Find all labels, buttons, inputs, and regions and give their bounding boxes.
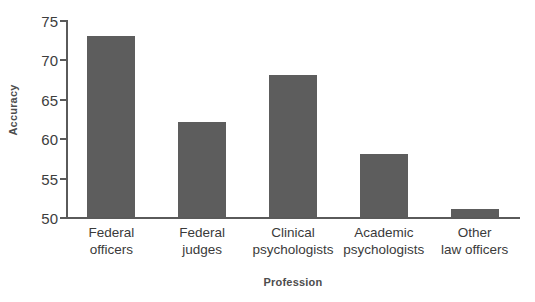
x-category-label: Federal officers	[66, 224, 157, 258]
y-tick-label: 70	[41, 53, 58, 68]
bar[interactable]	[451, 209, 499, 217]
bar[interactable]	[360, 154, 408, 217]
y-tick-mark	[60, 217, 66, 219]
x-axis-category-labels: Federal officersFederal judgesClinical p…	[66, 224, 520, 270]
y-axis-title: Accuracy	[0, 0, 26, 220]
y-tick-label: 50	[41, 211, 58, 226]
bar[interactable]	[178, 122, 226, 217]
x-category-label: Other law officers	[429, 224, 520, 258]
bar-chart: Accuracy 505560657075 Federal officersFe…	[0, 0, 535, 302]
x-category-label: Academic psychologists	[338, 224, 429, 258]
y-tick-label: 65	[41, 92, 58, 107]
y-tick-label: 60	[41, 132, 58, 147]
x-axis-title: Profession	[66, 276, 520, 288]
x-category-label: Clinical psychologists	[248, 224, 339, 258]
x-axis-line	[66, 217, 520, 219]
plot-area: 505560657075	[66, 20, 520, 218]
bars-layer	[66, 20, 520, 217]
y-tick-label: 55	[41, 171, 58, 186]
bar[interactable]	[269, 75, 317, 217]
bar[interactable]	[87, 36, 135, 217]
y-axis-title-label: Accuracy	[7, 84, 19, 135]
y-tick-label: 75	[41, 14, 58, 29]
x-category-label: Federal judges	[157, 224, 248, 258]
